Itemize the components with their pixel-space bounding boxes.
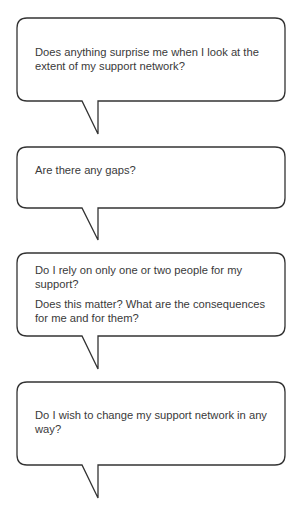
bubble-3-paragraph-2: Does this matter? What are the consequen…: [35, 297, 275, 325]
speech-bubble-1-outline: [17, 18, 285, 134]
speech-bubble-3-text: Do I rely on only one or two people for …: [35, 263, 275, 325]
bubble-1-paragraph-1: Does anything surprise me when I look at…: [35, 45, 275, 73]
bubble-3-paragraph-1: Do I rely on only one or two people for …: [35, 263, 275, 291]
speech-bubble-2-outline: [17, 147, 285, 240]
bubble-4-paragraph-1: Do I wish to change my support network i…: [35, 408, 275, 436]
speech-bubble-4-text: Do I wish to change my support network i…: [35, 408, 275, 436]
speech-bubble-1-text: Does anything surprise me when I look at…: [35, 45, 275, 73]
speech-bubble-2-text: Are there any gaps?: [35, 163, 275, 177]
bubble-2-paragraph-1: Are there any gaps?: [35, 163, 275, 177]
speech-bubble-4-outline: [17, 382, 285, 498]
